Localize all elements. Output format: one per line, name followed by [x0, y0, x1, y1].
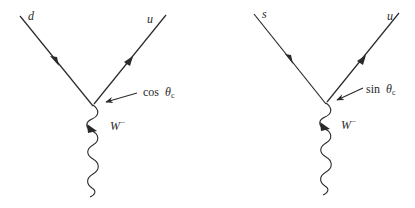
quark-label-u: u: [147, 12, 153, 26]
vertex-pointer-arrow-icon: [337, 88, 363, 100]
quark-label-u: u: [387, 9, 393, 23]
fermion-arrow-icon: [285, 54, 293, 64]
diagram-d-to-u: d u cos θc W−: [20, 9, 175, 197]
w-boson-wavy-line: [87, 105, 99, 197]
boson-arrow-icon: [87, 124, 97, 133]
vertex-pointer-arrow-icon: [106, 93, 137, 102]
coupling-label-cos-theta-c: cos θc: [143, 85, 175, 100]
diagram-s-to-u: s u sin θc W−: [254, 7, 399, 195]
quark-label-s: s: [262, 7, 267, 21]
feynman-diagrams: d u cos θc W−: [0, 0, 415, 208]
diagram-canvas: d u cos θc W−: [0, 0, 415, 208]
coupling-label-sin-theta-c: sin θc: [366, 82, 396, 97]
incoming-quark-line-d: [20, 16, 93, 106]
w-boson-wavy-line: [320, 103, 332, 195]
boson-arrow-icon: [320, 122, 330, 131]
boson-label-w-minus: W−: [110, 118, 125, 133]
boson-label-w-minus: W−: [341, 117, 356, 132]
quark-label-d: d: [28, 9, 35, 23]
fermion-arrow-icon: [50, 56, 59, 66]
incoming-quark-line-s: [254, 14, 326, 104]
